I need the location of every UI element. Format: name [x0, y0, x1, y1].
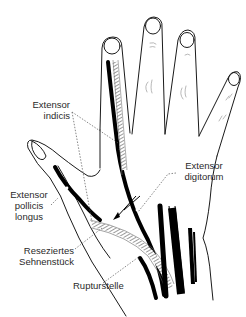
little-finger-outline [199, 72, 241, 156]
extensor-pollicis-longus-tendon [55, 167, 100, 220]
leader-extensor-digitorum [138, 173, 176, 212]
label-rupturstelle: Rupturstelle [73, 280, 124, 291]
label-reseziertes-sehnenstueck: Reseziertes Sehnenstück [10, 245, 74, 267]
middle-finger-outline [132, 17, 165, 134]
index-fingernail [104, 38, 120, 54]
leader-extensor-pollicis-longus [51, 198, 58, 205]
label-extensor-pollicis-longus: Extensor pollicis longus [6, 189, 52, 222]
ring-fingernail [180, 33, 194, 48]
extensor-digitorum-tendon-4 [190, 228, 193, 284]
hand-tendon-diagram [0, 0, 246, 317]
little-fingernail [229, 73, 240, 86]
leader-rupturstelle [103, 256, 140, 283]
leader-extensor-indicis-1 [72, 112, 118, 143]
label-extensor-indicis: Extensor indicis [22, 99, 70, 121]
tendons [55, 60, 196, 298]
middle-fingernail [146, 18, 161, 34]
label-extensor-digitorum: Extensor digitorum [176, 160, 232, 182]
